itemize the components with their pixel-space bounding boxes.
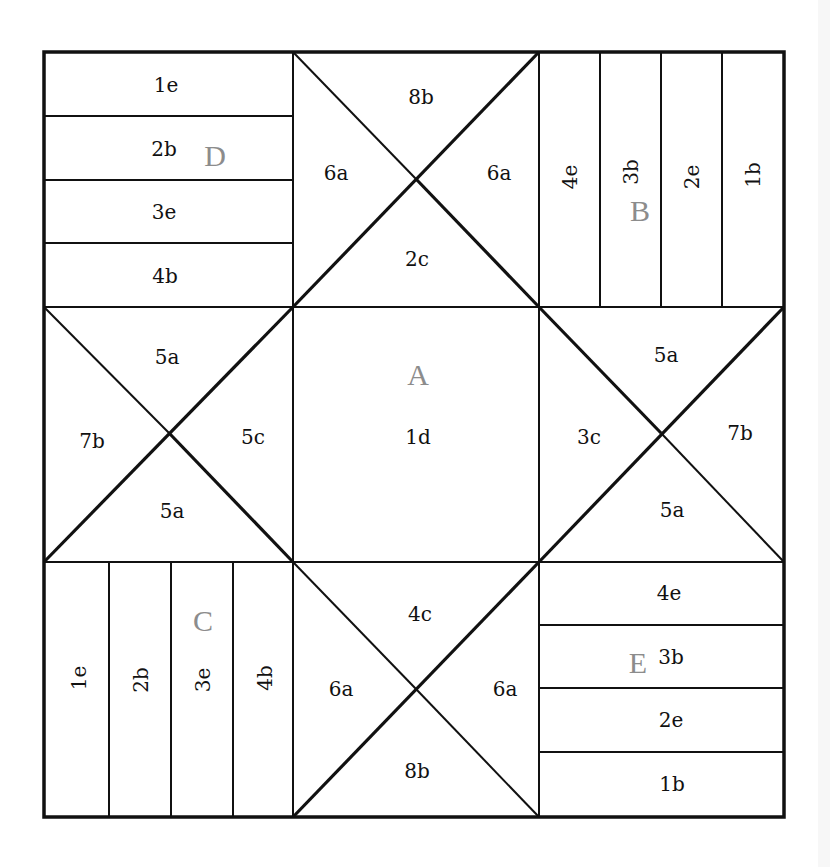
patch-label: 8b [404,759,430,783]
patch-label: 2c [405,247,429,271]
patch-label: 5a [654,343,679,367]
block-top-center: 8b 6a 6a 2c [293,52,539,307]
patch-label: 5a [660,498,685,522]
block-bottom-center: 4c 6a 6a 8b [293,562,539,817]
patch-label: 6a [487,161,512,185]
block-letter: D [204,139,226,172]
patch-label: 5a [155,345,180,369]
block-middle-right: 5a 3c 7b 5a [539,307,784,562]
strip-label: 3e [152,200,177,224]
diagonal [416,689,539,817]
strip-label: 4b [253,665,277,691]
quilt-block-diagram: 1e 2b 3e 4b D 8b 6a 6a 2c 4e 3b 2e 1b B … [0,0,830,867]
patch-label: 4c [408,602,432,626]
block-letter: E [629,646,647,679]
strip-label: 3b [619,159,643,185]
block-letter: C [193,604,213,637]
block-letter: A [407,358,429,391]
block-d: 1e 2b 3e 4b D [44,73,293,288]
block-a: A 1d [405,358,431,449]
block-b: 4e 3b 2e 1b B [558,52,765,307]
patch-label: 5c [241,425,265,449]
strip-label: 1e [154,73,179,97]
patch-label: 6a [493,677,518,701]
strip-label: 4b [152,264,178,288]
diagonal [293,562,416,689]
strip-label: 4e [657,581,682,605]
strip-label: 2b [129,667,153,693]
diagonal [44,307,170,434]
strip-label: 2b [151,137,177,161]
patch-label: 3c [577,425,601,449]
patch-label: 6a [324,161,349,185]
diagonal [293,52,416,179]
block-c: 1e 2b 3e 4b C [67,562,277,817]
diagonal [539,307,661,433]
patch-label: 1d [405,425,431,449]
diagonal [170,434,293,562]
patch-label: 7b [79,429,105,453]
strip-label: 4e [558,165,582,190]
block-middle-left: 5a 7b 5c 5a [44,307,293,562]
strip-label: 3b [658,645,684,669]
strip-label: 1b [741,162,765,188]
strip-label: 2e [680,165,704,190]
patch-label: 8b [408,85,434,109]
strip-label: 1e [67,666,91,691]
block-letter: B [630,194,650,227]
patch-label: 5a [160,499,185,523]
patch-label: 7b [727,421,753,445]
diagonal [416,179,539,307]
strip-label: 1b [659,772,685,796]
strip-label: 3e [191,668,215,693]
patch-label: 6a [329,677,354,701]
block-e: 4e 3b 2e 1b E [539,581,784,796]
strip-label: 2e [659,708,684,732]
